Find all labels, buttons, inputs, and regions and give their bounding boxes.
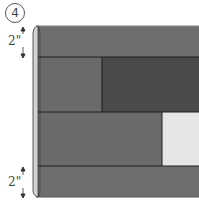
top-dimension-arrow <box>21 27 25 58</box>
bottom-strip <box>36 166 199 197</box>
top-dimension-label: 2" <box>8 34 21 48</box>
quilt-diagram <box>0 0 199 203</box>
top-strip <box>36 26 199 57</box>
row3-left-panel <box>36 112 162 166</box>
row2-left-panel <box>36 57 102 112</box>
rolled-edge <box>33 26 38 197</box>
bottom-dimension-label: 2" <box>8 175 21 189</box>
row2-right-panel <box>102 57 199 112</box>
row3-right-panel <box>162 112 199 166</box>
bottom-dimension-arrow <box>21 167 25 198</box>
